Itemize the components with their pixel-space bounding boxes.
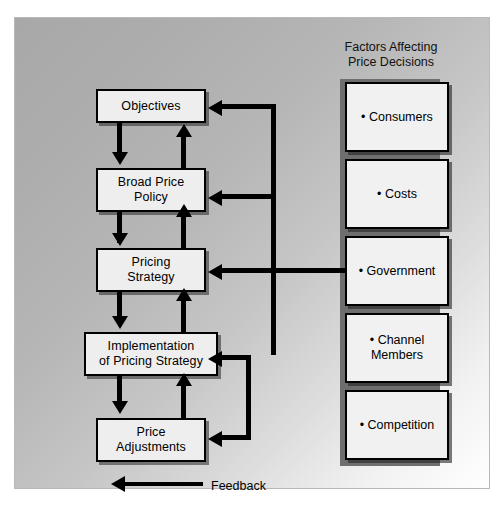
factor-box-label: • Government — [359, 264, 436, 279]
diagram-panel: Factors Affecting Price Decisions Object… — [14, 17, 490, 489]
factor-box-label: • Competition — [360, 418, 435, 433]
arrow-up-icon — [176, 124, 192, 137]
arrow-down-icon — [112, 401, 128, 414]
factor-box-government[interactable]: • Government — [345, 236, 449, 306]
feedback-spine-upper — [271, 104, 276, 199]
flow-box-implementation[interactable]: Implementation of Pricing Strategy — [84, 332, 218, 376]
feedback-spine-lower — [246, 355, 251, 440]
factor-box-label: • Channel Members — [370, 333, 424, 363]
left-arrow-icon — [111, 476, 125, 492]
flow-box-label: Implementation of Pricing Strategy — [99, 339, 203, 369]
diagram-canvas: Factors Affecting Price Decisions Object… — [0, 0, 504, 508]
flow-box-label: Pricing Strategy — [127, 255, 174, 285]
arrow-up-icon — [176, 288, 192, 301]
feedback-line-to-price-adjustments — [221, 435, 251, 440]
arrow-left-icon — [208, 351, 222, 367]
flow-box-price-adjustments[interactable]: Price Adjustments — [96, 418, 206, 462]
legend-feedback-label: Feedback — [211, 479, 266, 493]
feedback-trunk-upper — [271, 198, 276, 273]
factor-box-competition[interactable]: • Competition — [345, 390, 449, 460]
arrow-left-icon — [208, 264, 222, 280]
flow-box-label: Objectives — [121, 99, 180, 114]
factor-box-costs[interactable]: • Costs — [345, 159, 449, 229]
flow-connector-down-1 — [117, 123, 122, 154]
arrow-left-icon — [208, 431, 222, 447]
feedback-trunk-lower — [271, 268, 276, 355]
factor-trunk-to-pricing-strategy — [221, 268, 346, 273]
flow-connector-up-2 — [181, 216, 186, 249]
feedback-line-to-implementation — [221, 355, 251, 360]
factors-title: Factors Affecting Price Decisions — [323, 40, 459, 70]
factor-box-consumers[interactable]: • Consumers — [345, 82, 449, 152]
feedback-line-to-objectives — [221, 104, 276, 109]
flow-box-label: Broad Price Policy — [118, 175, 184, 205]
factor-box-channel-members[interactable]: • Channel Members — [345, 313, 449, 383]
flow-connector-up-3 — [181, 300, 186, 333]
flow-box-label: Price Adjustments — [116, 425, 186, 455]
legend-feedback-line — [125, 482, 203, 486]
arrow-down-icon — [112, 152, 128, 165]
flow-connector-up-1 — [181, 136, 186, 169]
arrow-left-icon — [208, 100, 222, 116]
arrow-up-icon — [176, 204, 192, 217]
factor-box-label: • Costs — [377, 187, 417, 202]
flow-connector-up-4 — [181, 385, 186, 419]
arrow-up-icon — [176, 373, 192, 386]
feedback-line-to-broad-price-policy — [221, 194, 276, 199]
factor-box-label: • Consumers — [361, 110, 433, 125]
arrow-down-icon — [112, 316, 128, 329]
arrow-down-icon — [112, 233, 128, 246]
flow-box-pricing-strategy[interactable]: Pricing Strategy — [96, 248, 206, 292]
flow-box-objectives[interactable]: Objectives — [96, 89, 206, 123]
arrow-left-icon — [208, 190, 222, 206]
